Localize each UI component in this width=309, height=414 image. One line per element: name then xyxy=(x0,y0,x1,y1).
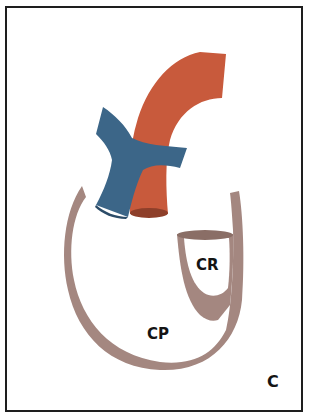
heart-pericardium-diagram: CR CP C xyxy=(0,0,309,414)
pericardial-recess-cup xyxy=(177,230,233,321)
label-cp: CP xyxy=(147,325,169,343)
panel-letter: C xyxy=(267,372,279,391)
label-cr: CR xyxy=(196,256,219,274)
aorta-vessel xyxy=(129,52,226,218)
